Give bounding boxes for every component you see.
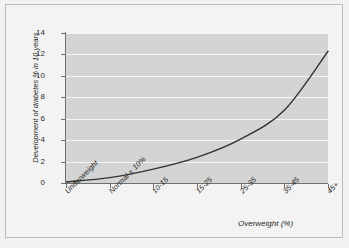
y-axis-title: Development of diabetes % in 10 years: [31, 18, 40, 178]
plot-area: [66, 33, 328, 183]
y-tick-mark: [61, 33, 66, 34]
chart-figure: 14121086420 UnderweightNormal ± 10%10-15…: [0, 0, 349, 248]
y-tick-mark: [61, 54, 66, 55]
y-tick-label: 0: [5, 179, 45, 187]
y-tick-mark: [61, 97, 66, 98]
diabetes-risk-curve: [66, 33, 328, 183]
x-axis-title: Overweight (%): [238, 219, 293, 228]
curve-path: [66, 51, 328, 182]
y-tick-mark: [61, 119, 66, 120]
figure-frame: 14121086420 UnderweightNormal ± 10%10-15…: [5, 4, 343, 238]
y-tick-mark: [61, 140, 66, 141]
y-tick-mark: [61, 76, 66, 77]
y-tick-mark: [61, 162, 66, 163]
